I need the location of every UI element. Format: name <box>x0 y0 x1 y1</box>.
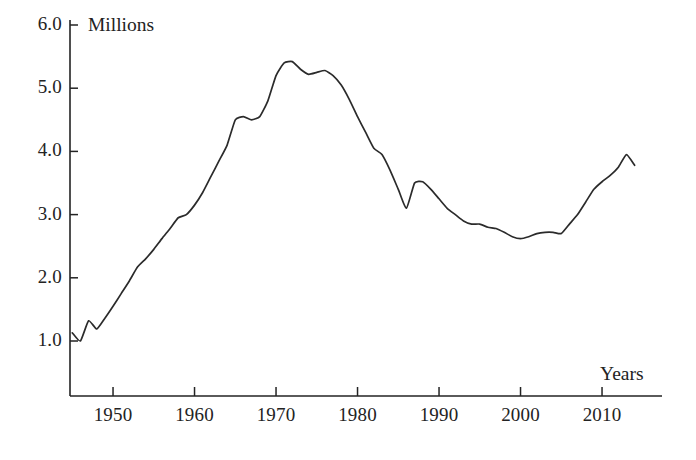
x-tick-label: 1970 <box>236 404 316 426</box>
chart-figure: 1.02.03.04.05.06.0 195019601970198019902… <box>0 0 696 460</box>
y-axis-ticks <box>70 25 78 341</box>
x-tick-label: 1960 <box>155 404 235 426</box>
y-axis-title: Millions <box>88 14 154 36</box>
y-tick-label: 6.0 <box>0 13 62 35</box>
x-tick-label: 2010 <box>562 404 642 426</box>
line-chart-plot <box>0 0 696 460</box>
x-tick-label: 1950 <box>73 404 153 426</box>
x-tick-label: 2000 <box>481 404 561 426</box>
x-tick-label: 1980 <box>318 404 398 426</box>
y-tick-label: 3.0 <box>0 203 62 225</box>
y-tick-label: 2.0 <box>0 266 62 288</box>
data-series-line <box>72 61 634 341</box>
x-axis-ticks <box>113 387 602 396</box>
x-axis-title: Years <box>600 363 644 385</box>
y-tick-label: 4.0 <box>0 139 62 161</box>
axis-lines <box>70 20 662 396</box>
y-tick-label: 1.0 <box>0 329 62 351</box>
x-tick-label: 1990 <box>399 404 479 426</box>
y-tick-label: 5.0 <box>0 76 62 98</box>
